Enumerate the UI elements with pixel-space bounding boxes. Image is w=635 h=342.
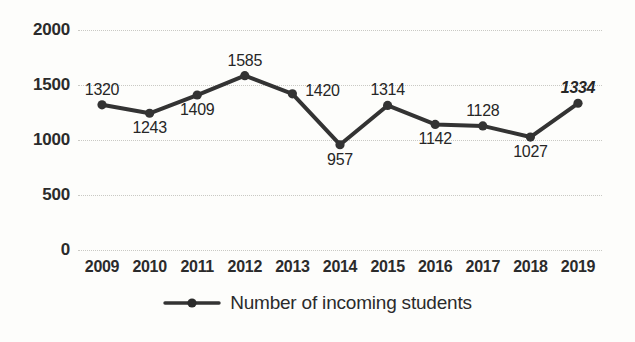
data-point-label: 1320	[85, 81, 119, 99]
data-point-label: 957	[327, 151, 353, 169]
x-axis-tick-label: 2015	[370, 258, 404, 276]
y-axis-tick-label: 1000	[33, 130, 70, 150]
data-point-marker	[335, 140, 344, 149]
series-incoming-students	[78, 30, 602, 250]
data-point-marker	[240, 71, 249, 80]
data-point-label: 1128	[466, 102, 499, 120]
data-point-label: 1409	[180, 101, 214, 119]
gridline	[78, 250, 602, 251]
data-point-label: 1243	[132, 119, 166, 137]
y-axis-tick-label: 2000	[33, 20, 70, 40]
data-point-label: 1142	[419, 130, 452, 148]
x-axis-tick-label: 2011	[180, 258, 214, 276]
x-axis-tick-label: 2009	[85, 258, 119, 276]
chart-legend: Number of incoming students	[0, 292, 635, 314]
x-axis-tick-label: 2018	[513, 258, 547, 276]
legend-label: Number of incoming students	[230, 292, 472, 314]
data-point-label: 1334	[561, 79, 595, 97]
data-point-marker	[383, 101, 392, 110]
data-point-marker	[478, 121, 487, 130]
data-point-label: 1420	[305, 82, 339, 100]
x-axis-tick-label: 2019	[561, 258, 595, 276]
x-axis-tick-label: 2010	[132, 258, 166, 276]
plot-area: 1320124314091585142095713141142112810271…	[78, 30, 602, 250]
x-axis-tick-label: 2017	[466, 258, 500, 276]
data-point-marker	[526, 132, 535, 141]
x-axis-tick-label: 2016	[418, 258, 452, 276]
data-point-marker	[97, 100, 106, 109]
data-point-label: 1585	[228, 52, 262, 70]
data-point-marker	[193, 90, 202, 99]
line-chart-figure: 0500100015002000 13201243140915851420957…	[0, 0, 635, 342]
x-axis: 2009201020112012201320142015201620172018…	[78, 258, 602, 284]
data-point-marker	[145, 109, 154, 118]
data-point-marker	[573, 99, 582, 108]
y-axis: 0500100015002000	[0, 30, 70, 250]
data-point-label: 1027	[513, 143, 547, 161]
y-axis-tick-label: 1500	[33, 75, 70, 95]
y-axis-tick-label: 500	[42, 185, 70, 205]
x-axis-tick-label: 2013	[275, 258, 309, 276]
data-point-marker	[431, 120, 440, 129]
x-axis-tick-label: 2012	[228, 258, 262, 276]
data-point-label: 1314	[370, 81, 404, 99]
data-point-marker	[288, 89, 297, 98]
legend-line-marker-icon	[163, 296, 221, 310]
y-axis-tick-label: 0	[61, 240, 70, 260]
x-axis-tick-label: 2014	[323, 258, 357, 276]
series-line	[102, 76, 578, 145]
